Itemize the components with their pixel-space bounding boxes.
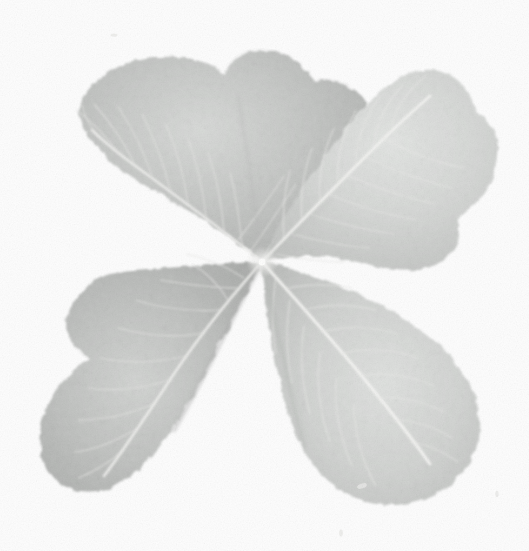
- clover-specimen-illustration: [0, 0, 529, 551]
- photographic-grain-overlay: [0, 0, 529, 551]
- image-canvas: Four-leaf clover leaf specimen scan Trif…: [0, 0, 529, 551]
